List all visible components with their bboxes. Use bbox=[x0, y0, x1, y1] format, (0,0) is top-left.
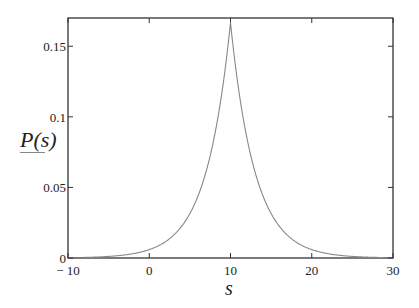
axis-ticks: − 10010203000.050.10.15 bbox=[43, 18, 399, 278]
x-tick-label: 30 bbox=[387, 263, 400, 278]
x-axis-label: s bbox=[225, 277, 233, 300]
y-tick-label: 0.05 bbox=[43, 180, 66, 195]
y-axis-label: P(s) bbox=[20, 127, 57, 153]
x-tick-label: 10 bbox=[224, 263, 237, 278]
y-tick-label: 0.15 bbox=[43, 39, 66, 54]
x-tick-label: 0 bbox=[146, 263, 153, 278]
x-tick-label: 20 bbox=[305, 263, 318, 278]
plot-frame bbox=[68, 18, 393, 258]
y-axis-label-underline bbox=[20, 152, 45, 153]
y-tick-label: 0.1 bbox=[50, 110, 66, 125]
y-tick-label: 0 bbox=[60, 251, 67, 266]
data-series-curve bbox=[84, 23, 385, 258]
chart-plot: − 10010203000.050.10.15 bbox=[0, 0, 419, 308]
